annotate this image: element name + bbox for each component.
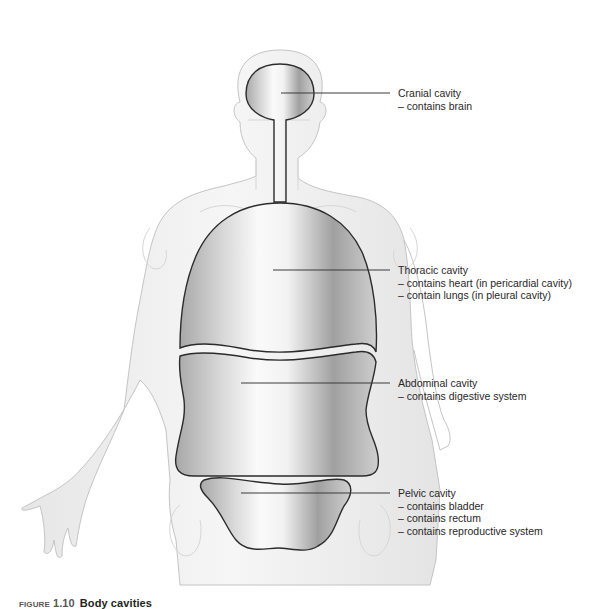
figure-caption: FIGURE 1.10Body cavities: [19, 597, 152, 609]
label-thoracic-cavity: Thoracic cavity – contains heart (in per…: [398, 264, 572, 302]
label-line: – contains bladder: [398, 500, 543, 513]
label-line: – contain lungs (in pleural cavity): [398, 289, 572, 302]
abdominal-cavity-shape: [176, 351, 379, 476]
label-title: Pelvic cavity: [398, 487, 543, 500]
label-line: – contains heart (in pericardial cavity): [398, 277, 572, 290]
figure-number: FIGURE 1.10: [19, 597, 75, 609]
label-title: Thoracic cavity: [398, 264, 572, 277]
figure-title: Body cavities: [80, 597, 152, 609]
label-line: – contains reproductive system: [398, 525, 543, 538]
label-pelvic-cavity: Pelvic cavity – contains bladder – conta…: [398, 487, 543, 537]
label-line: – contains digestive system: [398, 390, 526, 403]
label-title: Cranial cavity: [398, 87, 472, 100]
label-line: – contains brain: [398, 100, 472, 113]
label-abdominal-cavity: Abdominal cavity – contains digestive sy…: [398, 377, 526, 402]
label-cranial-cavity: Cranial cavity – contains brain: [398, 87, 472, 112]
label-line: – contains rectum: [398, 512, 543, 525]
label-title: Abdominal cavity: [398, 377, 526, 390]
